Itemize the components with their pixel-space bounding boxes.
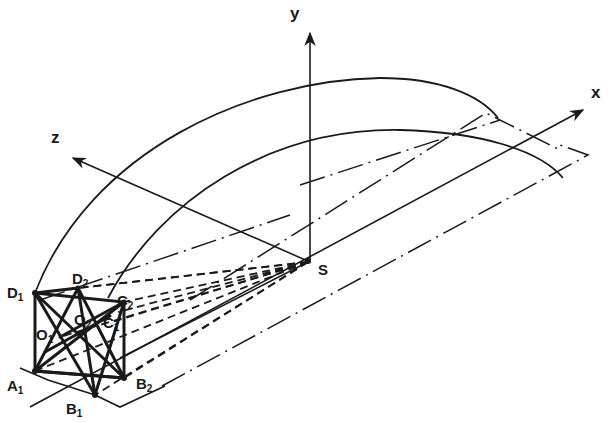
trajectory-arcs (35, 78, 563, 298)
label-O1: O1 (36, 326, 54, 345)
z-axis-label: z (51, 128, 60, 147)
point-A1 (32, 368, 38, 374)
label-C2: C2 (117, 292, 134, 311)
inner-arc (108, 130, 563, 298)
far-dashdot-line (300, 120, 560, 185)
ray-S-C2 (124, 262, 308, 302)
top-edge (35, 288, 78, 293)
ray-S-C2b (118, 262, 308, 312)
s-point-label: S (318, 261, 328, 278)
label-D1: D1 (7, 284, 24, 303)
point-S (305, 258, 311, 264)
bottom-edge (35, 371, 124, 378)
axes (30, 33, 583, 407)
label-A1: A1 (7, 377, 24, 396)
x-axis-label: x (591, 83, 601, 102)
ray-S-solid (120, 262, 308, 358)
z-axis (73, 158, 310, 262)
upper-dashdot-line (190, 113, 500, 300)
label-B2: B2 (136, 375, 153, 394)
point-D1 (32, 290, 38, 296)
point-B1 (92, 392, 98, 398)
dashdot-guides (40, 113, 588, 386)
outer-arc (35, 78, 498, 293)
y-axis-label: y (290, 4, 300, 23)
label-D2: D2 (72, 270, 89, 289)
label-C1: C1 (103, 314, 120, 333)
point-B2 (121, 375, 127, 381)
label-B1: B1 (66, 400, 83, 419)
lower-dashdot-line (162, 145, 588, 386)
label-O2: O2 (74, 311, 92, 330)
projection-diagram: y x z S D1 D2 C2 C1 O2 O1 A1 B2 B1 (0, 0, 610, 422)
